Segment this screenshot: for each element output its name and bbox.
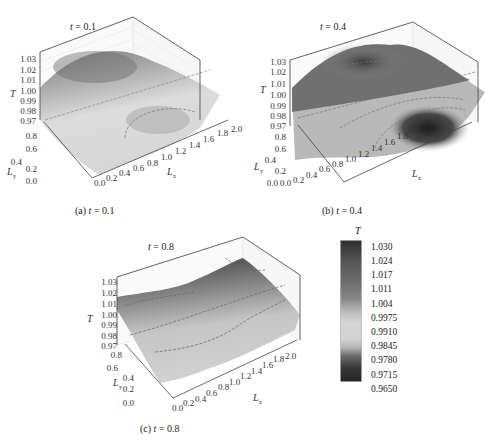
svg-text:0.6: 0.6 (133, 163, 145, 173)
svg-text:x: x (259, 399, 262, 405)
svg-text:y: y (13, 173, 16, 179)
colorbar-label: 0.9975 (371, 313, 397, 323)
panel-b-caption: (b) t = 0.4 (322, 205, 362, 216)
svg-text:1.01: 1.01 (270, 79, 286, 89)
svg-text:L: L (6, 166, 13, 177)
svg-text:0.99: 0.99 (20, 96, 36, 106)
colorbar-label: 0.9715 (371, 370, 397, 380)
colorbar-label: 0.9780 (371, 355, 397, 365)
svg-text:2.0: 2.0 (231, 124, 243, 134)
svg-text:L: L (166, 166, 173, 177)
svg-text:0.97: 0.97 (270, 121, 286, 131)
surface-plot-a: 1.031.021.01 1.000.990.98 0.97 T 0.80.60… (0, 0, 250, 200)
svg-text:1.03: 1.03 (20, 54, 36, 64)
svg-text:1.0: 1.0 (161, 152, 173, 162)
svg-text:x: x (418, 175, 421, 181)
colorbar-gradient (340, 240, 362, 382)
svg-text:0.99: 0.99 (101, 320, 117, 330)
svg-text:0.4: 0.4 (123, 373, 135, 383)
svg-text:1.02: 1.02 (20, 65, 36, 75)
svg-text:1.4: 1.4 (189, 140, 201, 150)
colorbar-label: 0.9845 (371, 341, 397, 351)
svg-text:0.97: 0.97 (20, 116, 36, 126)
surface-plot-c: 1.031.021.01 1.000.990.98 0.97 T 0.80.60… (85, 220, 330, 420)
svg-text:y: y (119, 384, 122, 390)
svg-text:0.4: 0.4 (195, 394, 207, 404)
colorbar (340, 240, 362, 386)
svg-text:1.4: 1.4 (371, 143, 383, 153)
svg-text:1.8: 1.8 (273, 354, 285, 364)
svg-text:0.8: 0.8 (111, 350, 123, 360)
svg-text:0.4: 0.4 (119, 168, 131, 178)
svg-text:0.8: 0.8 (26, 131, 38, 141)
svg-text:0.98: 0.98 (20, 106, 36, 116)
svg-text:1.03: 1.03 (101, 277, 117, 287)
svg-text:0.98: 0.98 (101, 331, 117, 341)
svg-text:1.2: 1.2 (175, 146, 186, 156)
svg-text:0.2: 0.2 (106, 173, 117, 183)
svg-text:1.0: 1.0 (229, 377, 241, 387)
svg-text:0.2: 0.2 (183, 398, 194, 408)
svg-text:L: L (252, 392, 259, 403)
svg-text:0.8: 0.8 (332, 159, 344, 169)
svg-text:0.99: 0.99 (270, 101, 286, 111)
svg-text:0.0: 0.0 (267, 178, 279, 188)
svg-text:1.4: 1.4 (251, 366, 263, 376)
panel-a-caption: (a) t = 0.1 (75, 205, 115, 216)
panel-c-caption: (c) t = 0.8 (140, 423, 180, 434)
svg-text:1.6: 1.6 (203, 134, 215, 144)
svg-text:1.01: 1.01 (101, 299, 117, 309)
svg-text:T: T (260, 84, 267, 95)
colorbar-label: 0.9910 (371, 327, 397, 337)
svg-text:0.0: 0.0 (26, 176, 38, 186)
svg-text:L: L (253, 161, 260, 172)
colorbar-label: 1.011 (371, 284, 392, 294)
svg-text:1.00: 1.00 (270, 90, 286, 100)
svg-text:2.0: 2.0 (407, 125, 419, 135)
colorbar-label: 1.030 (371, 242, 392, 252)
svg-text:0.4: 0.4 (306, 170, 318, 180)
svg-text:1.01: 1.01 (20, 75, 36, 85)
panel-a-plot: 1.031.021.01 1.000.990.98 0.97 T 0.80.60… (0, 0, 250, 200)
colorbar-label: 1.024 (371, 256, 392, 266)
svg-text:1.00: 1.00 (20, 86, 36, 96)
svg-text:0.2: 0.2 (123, 384, 134, 394)
svg-text:1.02: 1.02 (101, 288, 117, 298)
svg-text:0.6: 0.6 (275, 144, 287, 154)
svg-text:0.6: 0.6 (107, 363, 119, 373)
svg-text:0.2: 0.2 (26, 164, 37, 174)
svg-text:0.0: 0.0 (280, 178, 292, 188)
svg-text:1.03: 1.03 (270, 57, 286, 67)
svg-text:1.8: 1.8 (217, 128, 229, 138)
svg-text:1.6: 1.6 (262, 360, 274, 370)
svg-text:y: y (260, 168, 263, 174)
svg-text:0.0: 0.0 (123, 398, 135, 408)
svg-text:1.6: 1.6 (384, 137, 396, 147)
svg-text:T: T (87, 313, 94, 324)
svg-text:0.0: 0.0 (94, 178, 106, 188)
svg-text:T: T (10, 88, 17, 99)
svg-text:0.6: 0.6 (319, 164, 331, 174)
surface-plot-b: 1.031.021.01 1.000.990.98 0.97 T 0.80.60… (250, 0, 492, 200)
svg-text:1.02: 1.02 (270, 67, 286, 77)
colorbar-label: 1.004 (371, 299, 392, 309)
svg-text:0.8: 0.8 (275, 132, 287, 142)
colorbar-label: 0.9650 (371, 384, 397, 394)
svg-text:0.4: 0.4 (265, 155, 277, 165)
svg-text:0.2: 0.2 (293, 175, 304, 185)
panel-b-plot: 1.031.021.01 1.000.990.98 0.97 T 0.80.60… (250, 0, 492, 200)
colorbar-title: T (355, 225, 361, 236)
svg-text:0.6: 0.6 (206, 388, 218, 398)
svg-text:0.98: 0.98 (270, 111, 286, 121)
svg-text:0.2: 0.2 (275, 166, 286, 176)
svg-text:1.0: 1.0 (345, 154, 357, 164)
svg-text:0.8: 0.8 (218, 382, 230, 392)
svg-text:1.2: 1.2 (240, 371, 251, 381)
svg-text:0.8: 0.8 (147, 158, 159, 168)
svg-text:L: L (411, 168, 418, 179)
colorbar-label: 1.017 (371, 270, 392, 280)
svg-text:L: L (112, 377, 119, 388)
svg-text:1.2: 1.2 (358, 149, 369, 159)
svg-text:1.00: 1.00 (101, 310, 117, 320)
panel-c-plot: 1.031.021.01 1.000.990.98 0.97 T 0.80.60… (85, 220, 330, 420)
